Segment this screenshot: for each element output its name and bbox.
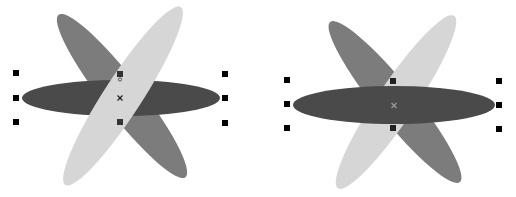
handle-top-left[interactable] [284, 77, 290, 83]
handle-mid-right[interactable] [496, 102, 502, 108]
handle-mid-left[interactable] [284, 101, 290, 107]
handle-top-center[interactable] [117, 71, 123, 77]
handle-bottom-center[interactable] [117, 119, 123, 125]
handle-top-left[interactable] [13, 70, 19, 76]
handle-bottom-right[interactable] [222, 120, 228, 126]
handle-bottom-right[interactable] [496, 126, 502, 132]
handle-bottom-left[interactable] [284, 125, 290, 131]
handle-bottom-center[interactable] [390, 125, 396, 131]
shape-group-right[interactable] [293, 5, 495, 197]
handle-mid-left[interactable] [13, 95, 19, 101]
handle-top-right[interactable] [496, 78, 502, 84]
handle-top-right[interactable] [222, 71, 228, 77]
handle-top-center[interactable] [390, 78, 396, 84]
canvas [0, 0, 516, 197]
handle-mid-right[interactable] [222, 95, 228, 101]
handle-bottom-left[interactable] [13, 119, 19, 125]
